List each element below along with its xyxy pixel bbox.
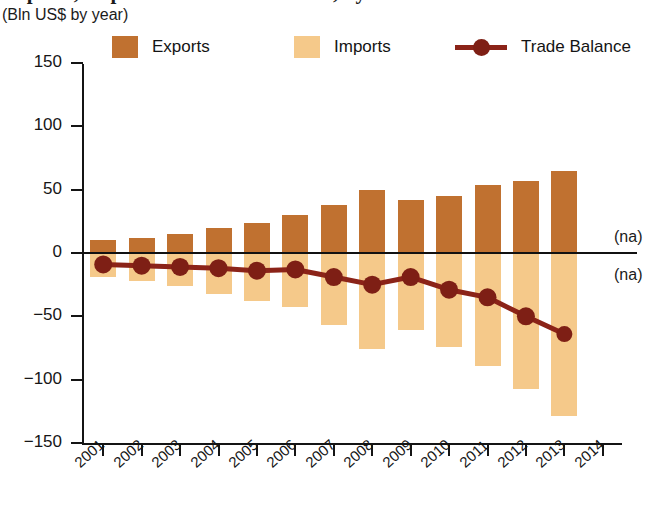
zero-baseline — [82, 252, 637, 254]
bar-exports[interactable] — [129, 238, 155, 253]
x-axis-tick-label: 2014 — [571, 436, 607, 471]
plot-area: 150100500−50−100−15020012002200320042005… — [0, 0, 648, 510]
bar-exports[interactable] — [244, 223, 270, 253]
bar-exports[interactable] — [436, 196, 462, 253]
x-axis-tick-label: 2012 — [494, 436, 530, 471]
x-axis-tick-label: 2002 — [110, 436, 146, 471]
bar-exports[interactable] — [513, 181, 539, 253]
x-axis-tick-label: 2005 — [225, 436, 261, 471]
y-axis — [82, 64, 84, 444]
bar-imports[interactable] — [244, 253, 270, 301]
bar-exports[interactable] — [282, 215, 308, 253]
x-axis-tick-label: 2011 — [456, 436, 491, 470]
bar-imports[interactable] — [206, 253, 232, 294]
x-axis-tick-label: 2004 — [187, 436, 223, 471]
bar-imports[interactable] — [475, 253, 501, 366]
bar-exports[interactable] — [398, 200, 424, 253]
y-axis-tick-label: −150 — [2, 432, 62, 452]
x-axis-tick-label: 2007 — [302, 436, 338, 471]
bar-imports[interactable] — [321, 253, 347, 325]
y-axis-tick-label: 100 — [2, 115, 62, 135]
bar-exports[interactable] — [206, 228, 232, 253]
bar-imports[interactable] — [513, 253, 539, 389]
bar-imports[interactable] — [436, 253, 462, 347]
bar-exports[interactable] — [167, 234, 193, 253]
y-axis-tick-label: −50 — [2, 305, 62, 325]
y-axis-tick-label: −100 — [2, 369, 62, 389]
y-axis-tick-label: 150 — [2, 52, 62, 72]
bar-imports[interactable] — [129, 253, 155, 281]
na-label-imports: (na) — [614, 266, 642, 284]
y-axis-tick-label: 50 — [2, 179, 62, 199]
bar-imports[interactable] — [90, 253, 116, 277]
na-label-exports: (na) — [614, 228, 642, 246]
bar-imports[interactable] — [551, 253, 577, 416]
bar-exports[interactable] — [321, 205, 347, 253]
chart-root: Exports, Imports and Trade Balance, by V… — [0, 0, 648, 510]
bar-exports[interactable] — [551, 171, 577, 253]
bar-imports[interactable] — [282, 253, 308, 307]
x-axis — [82, 443, 622, 445]
x-axis-tick-label: 2009 — [379, 436, 415, 471]
bar-imports[interactable] — [167, 253, 193, 286]
bar-exports[interactable] — [359, 190, 385, 253]
y-axis-tick-label: 0 — [2, 242, 62, 262]
bar-imports[interactable] — [359, 253, 385, 349]
bar-exports[interactable] — [475, 185, 501, 253]
bar-imports[interactable] — [398, 253, 424, 330]
